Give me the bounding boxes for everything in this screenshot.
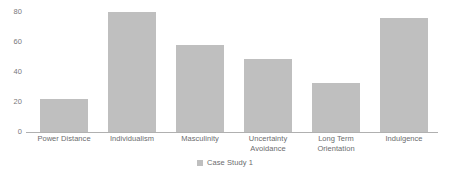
y-axis-tick-label: 0 [18, 128, 22, 136]
bar[interactable] [312, 83, 360, 133]
x-axis-category-label: Indulgence [370, 134, 438, 156]
bar-slot [98, 12, 166, 132]
chart-legend: Case Study 1 [0, 159, 450, 167]
legend-swatch-icon [197, 160, 203, 166]
x-axis-category-label: Power Distance [30, 134, 98, 156]
bar[interactable] [380, 18, 428, 132]
y-axis: 80 60 40 20 0 [0, 12, 26, 132]
plot-area [30, 12, 438, 132]
bar-slot [30, 12, 98, 132]
y-axis-tick-label: 20 [13, 98, 22, 106]
y-axis-tick-label: 40 [13, 68, 22, 76]
bar[interactable] [244, 59, 292, 133]
y-axis-tick-label: 80 [13, 8, 22, 16]
x-axis-line [26, 132, 438, 133]
x-axis-category-label: UncertaintyAvoidance [234, 134, 302, 156]
bar-chart: 80 60 40 20 0 [0, 0, 450, 179]
bar-slot [370, 12, 438, 132]
x-axis: Power Distance Individualism Masculinity… [30, 134, 438, 156]
bar[interactable] [108, 12, 156, 132]
y-axis-tick-label: 60 [13, 38, 22, 46]
bar[interactable] [176, 45, 224, 132]
bar-slot [166, 12, 234, 132]
x-axis-category-label: Long TermOrientation [302, 134, 370, 156]
bar-slot [302, 12, 370, 132]
bar-slot [234, 12, 302, 132]
x-axis-category-label: Masculinity [166, 134, 234, 156]
bar-group [30, 12, 438, 132]
bar[interactable] [40, 99, 88, 132]
legend-label[interactable]: Case Study 1 [207, 159, 253, 167]
x-axis-category-label: Individualism [98, 134, 166, 156]
